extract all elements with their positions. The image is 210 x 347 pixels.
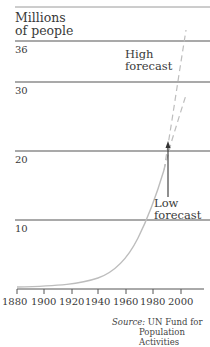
- source-line1: UN Fund for: [148, 317, 203, 327]
- y-axis-title-line2: of people: [15, 24, 73, 37]
- y-tick-20: 20: [15, 154, 28, 165]
- high-forecast-label-line2: forecast: [125, 60, 172, 72]
- x-tick-1920: 1920: [59, 296, 84, 307]
- x-tick-1940: 1940: [85, 296, 110, 307]
- high-forecast-label: High forecast: [125, 48, 172, 72]
- low-forecast-label-line2: forecast: [154, 209, 201, 221]
- y-tick-36: 36: [15, 44, 28, 55]
- arrowhead-icon: [166, 141, 171, 148]
- low-forecast-line: [164, 95, 186, 170]
- y-axis-title: Millions of people: [15, 11, 73, 37]
- x-tick-2000: 2000: [168, 296, 193, 307]
- y-tick-30: 30: [15, 85, 28, 96]
- source-prefix: Source:: [112, 317, 145, 327]
- x-tick-1960: 1960: [113, 296, 138, 307]
- x-tick-1900: 1900: [31, 296, 56, 307]
- x-axis-ticks: [17, 289, 181, 294]
- x-tick-1880: 1880: [2, 296, 27, 307]
- x-tick-1980: 1980: [140, 296, 165, 307]
- historical-curve: [17, 170, 164, 287]
- source-note: Source: UN Fund for Population Activitie…: [112, 317, 210, 347]
- low-forecast-label: Low forecast: [154, 197, 201, 221]
- source-line2: Population Activities: [112, 327, 210, 347]
- y-tick-10: 10: [15, 223, 28, 234]
